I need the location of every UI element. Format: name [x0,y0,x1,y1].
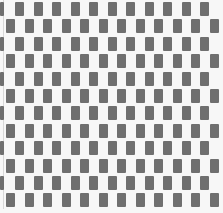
pattern-block [6,54,15,68]
pattern-block [145,72,154,86]
pattern-block [136,193,145,207]
pattern-block [117,19,126,33]
pattern-block [52,72,61,86]
pattern-block [80,124,89,138]
checker-pattern [0,0,223,213]
pattern-block [173,193,182,207]
pattern-row [0,176,223,190]
pattern-block [126,72,135,86]
pattern-block [145,2,154,16]
pattern-block [136,54,145,68]
pattern-block [108,176,117,190]
pattern-block [62,89,71,103]
pattern-block [126,141,135,155]
pattern-block [34,106,43,120]
pattern-block [71,106,80,120]
pattern-block [191,159,200,173]
pattern-block [25,89,34,103]
pattern-block [80,193,89,207]
pattern-block [99,159,108,173]
pattern-block [62,19,71,33]
pattern-block [89,141,98,155]
pattern-block [108,72,117,86]
pattern-block [34,72,43,86]
pattern-block [108,106,117,120]
pattern-block [200,72,209,86]
pattern-block [145,106,154,120]
pattern-block [25,19,34,33]
pattern-block [163,176,172,190]
pattern-block [25,124,34,138]
pattern-row [0,19,223,33]
pattern-block [136,89,145,103]
pattern-block [117,89,126,103]
pattern-block [99,193,108,207]
pattern-block [191,89,200,103]
pattern-block [62,159,71,173]
pattern-block [173,159,182,173]
pattern-block [25,159,34,173]
pattern-block [117,159,126,173]
pattern-block [25,54,34,68]
pattern-block [99,54,108,68]
pattern-block [34,141,43,155]
pattern-block [15,176,24,190]
pattern-block [43,54,52,68]
pattern-block [210,54,219,68]
pattern-block [80,19,89,33]
pattern-block [71,141,80,155]
pattern-block [182,2,191,16]
pattern-row [0,72,223,86]
pattern-block [200,106,209,120]
pattern-block [173,124,182,138]
pattern-block [108,141,117,155]
pattern-row [0,141,223,155]
pattern-block [6,124,15,138]
pattern-block [210,124,219,138]
pattern-block [52,176,61,190]
pattern-row [0,89,223,103]
pattern-block [6,19,15,33]
pattern-block [126,2,135,16]
pattern-block [108,37,117,51]
pattern-block [15,72,24,86]
pattern-block [200,141,209,155]
pattern-block [6,159,15,173]
pattern-row [0,106,223,120]
pattern-block [99,89,108,103]
pattern-block [182,106,191,120]
pattern-block [108,2,117,16]
pattern-block [34,37,43,51]
pattern-block [173,54,182,68]
pattern-block [52,141,61,155]
pattern-block [182,72,191,86]
pattern-block [43,124,52,138]
pattern-block [210,19,219,33]
pattern-block [0,106,4,120]
pattern-block [154,19,163,33]
pattern-block [43,89,52,103]
pattern-block [191,193,200,207]
pattern-block [89,176,98,190]
pattern-block [154,193,163,207]
pattern-block [136,159,145,173]
pattern-block [0,37,4,51]
pattern-block [173,89,182,103]
pattern-block [34,176,43,190]
pattern-block [6,89,15,103]
pattern-block [34,2,43,16]
pattern-block [0,176,4,190]
pattern-block [52,106,61,120]
pattern-block [136,124,145,138]
pattern-row [0,54,223,68]
pattern-block [126,176,135,190]
pattern-block [200,2,209,16]
pattern-block [15,106,24,120]
pattern-block [43,19,52,33]
pattern-block [163,106,172,120]
pattern-block [163,37,172,51]
pattern-row [0,37,223,51]
pattern-row [0,193,223,207]
pattern-block [182,141,191,155]
pattern-block [71,176,80,190]
